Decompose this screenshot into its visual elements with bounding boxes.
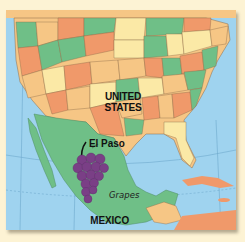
label-states: STATES [105, 102, 142, 113]
label-united-states: UNITED STATES [105, 91, 142, 113]
label-mexico: MEXICO [90, 215, 129, 226]
canada [6, 10, 236, 18]
jamaica [218, 198, 230, 202]
label-grapes: Grapes [109, 190, 139, 200]
map-frame: UNITED STATES El Paso Grapes MEXICO [6, 10, 236, 230]
label-el-paso: El Paso [89, 138, 125, 149]
